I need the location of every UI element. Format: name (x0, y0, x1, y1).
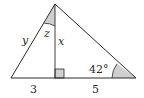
label-y: y (21, 34, 29, 47)
label-angle-42: 42° (89, 63, 109, 76)
label-base-5: 5 (92, 83, 99, 96)
triangle-diagram: y z x 42° 3 5 (0, 0, 144, 98)
label-x: x (58, 35, 65, 48)
label-z: z (43, 27, 50, 40)
label-base-3: 3 (30, 83, 37, 96)
right-angle-marker (55, 69, 64, 78)
